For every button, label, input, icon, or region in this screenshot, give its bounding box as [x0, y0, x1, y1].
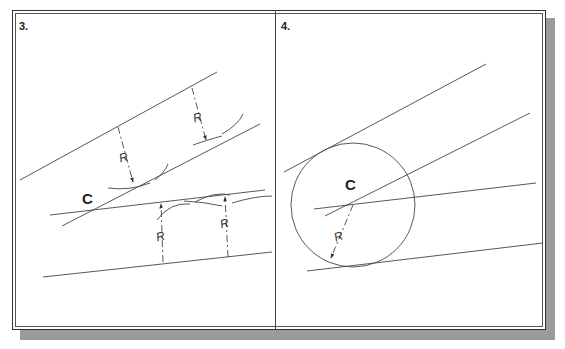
panel-4-radius-label: R	[332, 228, 345, 244]
given-line-1	[284, 64, 486, 172]
arc-2b	[222, 114, 243, 134]
panel-3-drawing	[20, 72, 272, 277]
panel-4-drawing	[284, 64, 543, 271]
given-line-1	[20, 72, 217, 180]
arc-3a	[157, 204, 190, 220]
arc-3b	[184, 201, 222, 206]
panel-3-radius-label-2: R	[191, 109, 203, 125]
given-line-2	[43, 252, 272, 277]
construction-drawing: C R R R R C R	[0, 0, 565, 349]
panel-3-radius-label-3: R	[154, 228, 166, 244]
offset-line-1	[325, 113, 530, 216]
panel-4-center-label: C	[345, 176, 356, 193]
arc-4a	[232, 196, 272, 203]
panel-3-radius-label-4: R	[218, 215, 230, 231]
arc-2a	[193, 136, 222, 145]
given-line-2	[307, 243, 543, 271]
panel-3-center-label: C	[82, 190, 93, 207]
panel-3-radius-label-1: R	[117, 149, 129, 165]
